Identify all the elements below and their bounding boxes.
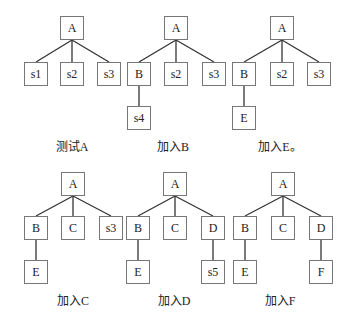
tree-node-s3: s3 bbox=[202, 62, 226, 86]
panel-caption: 测试A bbox=[32, 137, 112, 155]
tree-node-a: A bbox=[271, 172, 295, 196]
tree-node-a: A bbox=[60, 16, 84, 40]
tree-node-a: A bbox=[164, 16, 188, 40]
edge-a-s1 bbox=[36, 40, 72, 62]
edge-a-b bbox=[36, 196, 73, 216]
tree-node-e: E bbox=[24, 260, 48, 284]
edge-a-s3 bbox=[176, 40, 214, 62]
tree-node-s3: s3 bbox=[97, 62, 121, 86]
tree-node-s3: s3 bbox=[307, 62, 331, 86]
tree-node-a: A bbox=[61, 172, 85, 196]
tree-node-b: B bbox=[233, 216, 257, 240]
tree-node-s2: s2 bbox=[164, 62, 188, 86]
panel-caption: 加入D bbox=[134, 291, 214, 309]
tree-node-c: C bbox=[271, 216, 295, 240]
panel-caption: 加入F bbox=[240, 291, 320, 309]
tree-node-b: B bbox=[24, 216, 48, 240]
panel-caption: 加入B bbox=[133, 137, 213, 155]
tree-node-a: A bbox=[163, 172, 187, 196]
tree-node-b: B bbox=[126, 216, 150, 240]
tree-node-e: E bbox=[233, 260, 257, 284]
edge-a-s3 bbox=[282, 40, 319, 62]
tree-node-s2: s2 bbox=[270, 62, 294, 86]
tree-node-c: C bbox=[163, 216, 187, 240]
tree-node-e: E bbox=[232, 106, 256, 130]
tree-node-s3: s3 bbox=[99, 216, 123, 240]
tree-node-b: B bbox=[232, 62, 256, 86]
edge-a-b bbox=[138, 196, 175, 216]
tree-node-s2: s2 bbox=[60, 62, 84, 86]
tree-node-b: B bbox=[127, 62, 151, 86]
tree-node-e: E bbox=[126, 260, 150, 284]
tree-node-a: A bbox=[270, 16, 294, 40]
tree-node-d: D bbox=[201, 216, 225, 240]
tree-node-s5: s5 bbox=[201, 260, 225, 284]
panel-caption: 加入E。 bbox=[240, 137, 320, 155]
tree-node-f: F bbox=[309, 260, 333, 284]
edge-a-s3 bbox=[73, 196, 111, 216]
tree-node-s1: s1 bbox=[24, 62, 48, 86]
edge-a-b bbox=[245, 196, 283, 216]
edge-a-b bbox=[139, 40, 176, 62]
tree-node-c: C bbox=[61, 216, 85, 240]
edge-a-d bbox=[175, 196, 213, 216]
tree-node-d: D bbox=[309, 216, 333, 240]
tree-node-s4: s4 bbox=[127, 106, 151, 130]
edge-a-d bbox=[283, 196, 321, 216]
tree-edges bbox=[0, 0, 354, 326]
edge-a-s3 bbox=[72, 40, 109, 62]
edge-a-b bbox=[244, 40, 282, 62]
panel-caption: 加入C bbox=[33, 291, 113, 309]
